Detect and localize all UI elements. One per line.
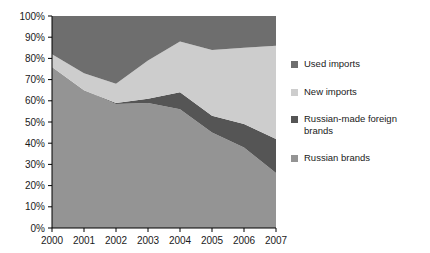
x-axis-ticks: 20002001200220032004200520062007 bbox=[41, 228, 288, 246]
legend-item-russian-made-foreign-brands[interactable]: Russian-made foreign brands bbox=[291, 113, 427, 136]
legend-swatch-new-imports bbox=[291, 89, 298, 96]
chart-legend: Used imports New imports Russian-made fo… bbox=[291, 58, 427, 180]
x-tick-label: 2005 bbox=[201, 235, 224, 246]
legend-swatch-russian-brands bbox=[291, 155, 298, 162]
x-tick-label: 2006 bbox=[233, 235, 256, 246]
y-tick-label: 40% bbox=[25, 138, 45, 149]
y-tick-label: 30% bbox=[25, 159, 45, 170]
legend-label-new-imports: New imports bbox=[304, 86, 357, 98]
y-tick-label: 0% bbox=[31, 223, 46, 234]
x-tick-label: 2004 bbox=[169, 235, 192, 246]
x-tick-label: 2007 bbox=[265, 235, 288, 246]
x-tick-label: 2001 bbox=[73, 235, 96, 246]
x-tick-label: 2000 bbox=[41, 235, 64, 246]
stacked-area-chart: 0%10%20%30%40%50%60%70%80%90%100% 200020… bbox=[0, 0, 430, 253]
legend-swatch-russian-made-foreign-brands bbox=[291, 116, 298, 123]
y-tick-label: 60% bbox=[25, 95, 45, 106]
y-tick-label: 90% bbox=[25, 32, 45, 43]
legend-item-used-imports[interactable]: Used imports bbox=[291, 58, 427, 70]
y-tick-label: 70% bbox=[25, 74, 45, 85]
legend-item-russian-brands[interactable]: Russian brands bbox=[291, 152, 427, 164]
y-axis-ticks: 0%10%20%30%40%50%60%70%80%90%100% bbox=[19, 11, 52, 234]
y-tick-label: 50% bbox=[25, 117, 45, 128]
y-tick-label: 10% bbox=[25, 201, 45, 212]
x-tick-label: 2002 bbox=[105, 235, 128, 246]
area-series-group bbox=[52, 16, 276, 228]
legend-item-new-imports[interactable]: New imports bbox=[291, 86, 427, 98]
legend-swatch-used-imports bbox=[291, 61, 298, 68]
x-tick-label: 2003 bbox=[137, 235, 160, 246]
legend-label-russian-brands: Russian brands bbox=[304, 152, 370, 164]
legend-label-russian-made-foreign-brands: Russian-made foreign brands bbox=[304, 113, 427, 136]
y-tick-label: 100% bbox=[19, 11, 45, 22]
y-tick-label: 20% bbox=[25, 180, 45, 191]
y-tick-label: 80% bbox=[25, 53, 45, 64]
legend-label-used-imports: Used imports bbox=[304, 58, 360, 70]
